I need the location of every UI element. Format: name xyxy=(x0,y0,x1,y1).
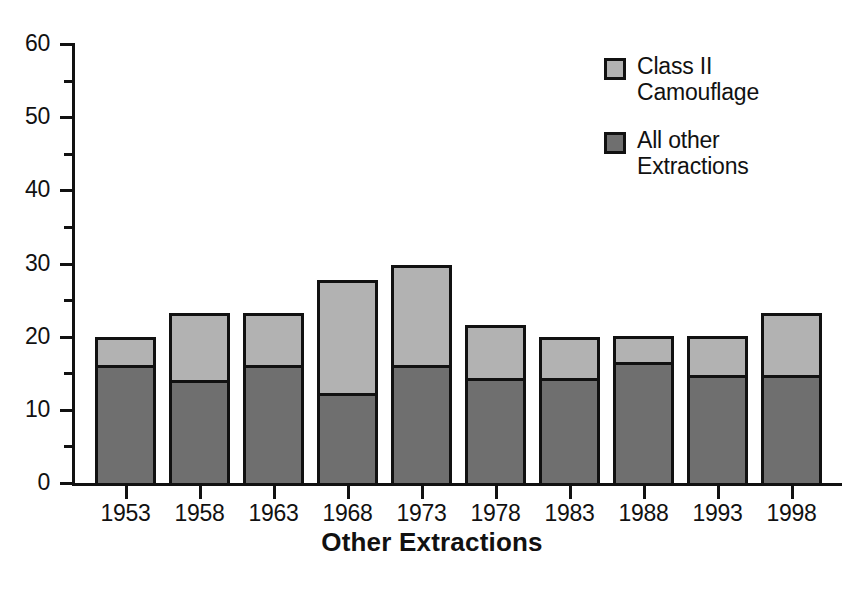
bar-segment-class-ii-camouflage-1958 xyxy=(169,313,230,383)
y-axis-label-40: 40 xyxy=(0,178,50,201)
bar-1968 xyxy=(317,280,378,483)
y-tick-minor-35 xyxy=(64,226,75,229)
legend-swatch-icon-all-other-extractions xyxy=(604,132,626,154)
y-tick-major-40 xyxy=(60,189,75,192)
bar-1973 xyxy=(391,265,452,483)
bar-segment-class-ii-camouflage-1988 xyxy=(613,336,674,365)
y-tick-major-30 xyxy=(60,263,75,266)
bar-segment-all-other-extractions-1983 xyxy=(539,378,600,486)
bar-segment-class-ii-camouflage-1978 xyxy=(465,325,526,381)
figure-container: 0102030405060 19531958196319681973197819… xyxy=(0,0,864,594)
bar-segment-class-ii-camouflage-1973 xyxy=(391,265,452,368)
bar-segment-class-ii-camouflage-1993 xyxy=(687,336,748,379)
x-axis-title: Other Extractions xyxy=(0,527,864,558)
bar-1978 xyxy=(465,325,526,483)
bar-segment-all-other-extractions-1953 xyxy=(95,365,156,486)
bar-1953 xyxy=(95,337,156,483)
x-tick-1958 xyxy=(199,486,202,499)
y-tick-minor-55 xyxy=(64,80,75,83)
y-tick-major-60 xyxy=(60,43,75,46)
bar-segment-all-other-extractions-1958 xyxy=(169,380,230,486)
legend-label-all-other-extractions: All other Extractions xyxy=(637,127,749,179)
y-tick-major-20 xyxy=(60,336,75,339)
bar-segment-class-ii-camouflage-1998 xyxy=(761,313,822,379)
bar-segment-all-other-extractions-1963 xyxy=(243,365,304,486)
y-tick-minor-15 xyxy=(64,372,75,375)
figure-caption xyxy=(0,580,864,594)
bar-1988 xyxy=(613,336,674,483)
bar-segment-all-other-extractions-1993 xyxy=(687,375,748,486)
x-tick-1973 xyxy=(421,486,424,499)
chart-legend: Class II Camouflage All other Extraction… xyxy=(604,53,759,201)
y-axis-label-0: 0 xyxy=(0,471,50,494)
bar-segment-all-other-extractions-1978 xyxy=(465,378,526,486)
y-tick-major-50 xyxy=(60,116,75,119)
legend-label-class-ii-camouflage: Class II Camouflage xyxy=(637,53,759,105)
bar-segment-all-other-extractions-1988 xyxy=(613,362,674,486)
y-tick-minor-5 xyxy=(64,445,75,448)
bar-segment-class-ii-camouflage-1963 xyxy=(243,313,304,368)
x-tick-1988 xyxy=(643,486,646,499)
x-tick-1968 xyxy=(347,486,350,499)
bar-1963 xyxy=(243,313,304,483)
legend-swatch-icon-class-ii-camouflage xyxy=(604,58,626,80)
y-tick-major-0 xyxy=(60,482,75,485)
x-tick-1998 xyxy=(791,486,794,499)
legend-item-class-ii-camouflage: Class II Camouflage xyxy=(604,53,759,105)
y-tick-minor-45 xyxy=(64,153,75,156)
y-axis-label-30: 30 xyxy=(0,252,50,275)
bar-1983 xyxy=(539,337,600,483)
bar-1998 xyxy=(761,313,822,483)
x-tick-1993 xyxy=(717,486,720,499)
x-tick-1963 xyxy=(273,486,276,499)
y-tick-major-10 xyxy=(60,409,75,412)
y-axis-label-10: 10 xyxy=(0,398,50,421)
x-axis-label-1998: 1998 xyxy=(747,500,837,526)
y-axis-label-60: 60 xyxy=(0,32,50,55)
y-tick-minor-25 xyxy=(64,299,75,302)
bar-segment-all-other-extractions-1973 xyxy=(391,365,452,486)
x-tick-1983 xyxy=(569,486,572,499)
bar-1993 xyxy=(687,336,748,483)
y-axis-label-20: 20 xyxy=(0,325,50,348)
bar-segment-class-ii-camouflage-1968 xyxy=(317,280,378,396)
bar-segment-all-other-extractions-1968 xyxy=(317,393,378,486)
x-tick-1953 xyxy=(125,486,128,499)
bar-1958 xyxy=(169,313,230,483)
x-tick-1978 xyxy=(495,486,498,499)
bar-segment-class-ii-camouflage-1953 xyxy=(95,337,156,369)
legend-item-all-other-extractions: All other Extractions xyxy=(604,127,759,179)
bar-segment-all-other-extractions-1998 xyxy=(761,375,822,486)
bar-segment-class-ii-camouflage-1983 xyxy=(539,337,600,381)
y-axis-label-50: 50 xyxy=(0,105,50,128)
